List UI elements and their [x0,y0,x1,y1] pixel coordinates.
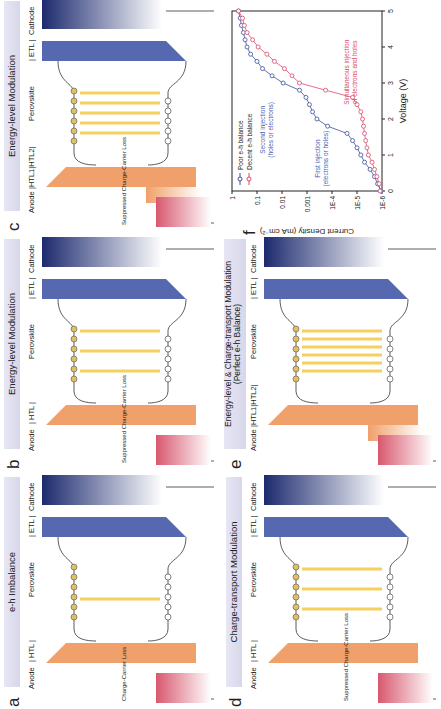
label-perovskite: Perovskite [27,562,36,597]
hole [165,336,171,342]
chart-annotation: First injection [314,139,322,178]
panel-letter: c [4,223,24,232]
data-point [370,160,374,164]
panel-a: a e-h Imbalance Anode | HTL | Perovskite… [0,473,215,709]
panel-title: Energy-level Modulation [4,1,20,211]
data-point [378,189,382,193]
label-anode: Anode [249,667,258,689]
electron [71,138,77,144]
electron [293,366,299,372]
data-point [359,110,363,114]
series-line [238,11,380,191]
data-point [236,9,240,13]
data-point [261,67,265,71]
electron [71,366,77,372]
panel-title: Charge-transport Modulation [226,477,242,687]
band-diagram: Charge-Carrier Loss [36,473,214,709]
panel-e: e Energy-level & Charge-transport Modula… [222,235,437,471]
data-point [307,103,311,107]
hole [165,366,171,372]
data-point [377,182,381,186]
electron [293,574,299,580]
label-cathode: Cathode [27,483,36,511]
series-line [238,11,380,191]
label-cathode: Cathode [27,7,36,35]
iv-chart: 0123451E-61E-51E-40.0010.010.11Voltage (… [222,0,437,239]
chart-annotation: of electrons and holes [351,40,358,104]
data-point [366,153,370,157]
data-point [355,146,359,150]
chart-annotation: (holes or electrons) [267,102,275,158]
etl-layer [42,41,186,61]
data-point [272,59,276,63]
data-point [311,110,315,114]
hole [165,346,171,352]
hole [387,614,393,620]
panel-title: Energy-level & Charge-transport Modulati… [224,239,244,449]
electron [71,584,77,590]
annotation-text: Suppressed Charge-Carrier Loss [121,137,127,225]
hole [165,376,171,382]
electron [71,356,77,362]
data-point [242,23,246,27]
y-tick-label: 1E-5 [354,196,361,210]
hole [165,118,171,124]
electron [71,98,77,104]
figure: a e-h Imbalance Anode | HTL | Perovskite… [0,0,441,709]
panel-title: e-h Imbalance [4,477,20,687]
etl-layer [264,279,408,299]
data-point [304,95,308,99]
panel-letter: d [226,698,246,707]
band-diagram: Suppressed Charge-Carrier Loss [36,235,214,471]
data-point [270,74,274,78]
panel-subtitle-text: (Perfect e-h Balance) [233,239,242,449]
electron [71,346,77,352]
hole [165,128,171,134]
electron [293,594,299,600]
data-point [372,167,376,171]
label-htl: | HTL | [27,402,36,424]
data-point [297,81,301,85]
electron [293,326,299,332]
data-point [361,124,365,128]
y-tick-label: 1E-6 [379,196,386,210]
data-point [345,131,349,135]
data-point [251,38,255,42]
y-tick-label: 1 [229,196,236,200]
electron [293,604,299,610]
electron [71,88,77,94]
electron [293,564,299,570]
panel-letter: b [4,460,24,469]
electron [71,118,77,124]
hole [387,336,393,342]
data-point [290,74,294,78]
data-point [243,38,247,42]
label-etl: | ETL | [249,515,258,537]
electron [293,346,299,352]
data-point [241,16,245,20]
label-htl: |HTL1|HTL2| [249,384,258,427]
electron [293,376,299,382]
label-cathode: Cathode [249,245,258,273]
hole [387,366,393,372]
data-point [326,124,330,128]
x-tick-label: 4 [387,45,394,49]
data-point [368,167,372,171]
electron [71,128,77,134]
electron [71,574,77,580]
chart-annotation: Simultaneous injection [343,39,351,104]
label-perovskite: Perovskite [249,324,258,359]
data-point [249,52,253,56]
band-diagram [258,235,436,471]
data-point [363,131,367,135]
anode-block [156,197,211,227]
y-tick-label: 0.1 [254,196,261,205]
electron [71,376,77,382]
data-point [245,45,249,49]
hole [387,594,393,600]
electron [71,336,77,342]
annotation-text: Charge-Carrier Loss [121,647,127,701]
x-tick-label: 5 [387,9,394,13]
data-point [245,31,249,35]
panel-letter: f [240,230,260,235]
